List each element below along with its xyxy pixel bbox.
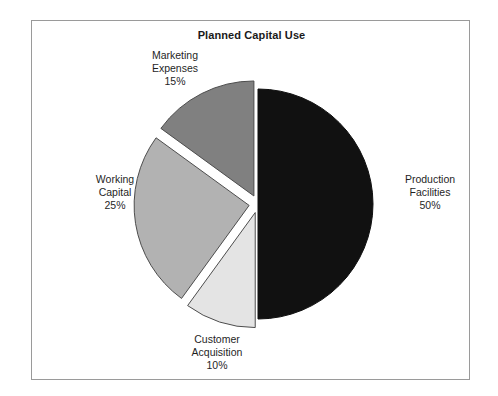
pie-label-working-line2: Capital bbox=[60, 186, 170, 199]
pie-label-marketing-percent: 15% bbox=[120, 75, 230, 88]
pie-label-marketing-expenses: Marketing Expenses 15% bbox=[120, 49, 230, 88]
pie-label-marketing-line2: Expenses bbox=[120, 62, 230, 75]
pie-label-production-line2: Facilities bbox=[370, 186, 490, 199]
pie-label-customer-percent: 10% bbox=[157, 359, 277, 372]
pie-label-working-line1: Working bbox=[60, 173, 170, 186]
pie-label-production-facilities: Production Facilities 50% bbox=[370, 173, 490, 212]
pie-label-working-percent: 25% bbox=[60, 199, 170, 212]
pie-slice-production-facilities[interactable] bbox=[258, 89, 373, 319]
pie-label-customer-line1: Customer bbox=[157, 333, 277, 346]
pie-label-production-percent: 50% bbox=[370, 199, 490, 212]
pie-chart-figure: Planned Capital Use Marketing Expenses 1… bbox=[0, 0, 498, 396]
pie-label-customer-acquisition: Customer Acquisition 10% bbox=[157, 333, 277, 372]
pie-label-working-capital: Working Capital 25% bbox=[60, 173, 170, 212]
pie-label-marketing-line1: Marketing bbox=[120, 49, 230, 62]
pie-label-customer-line2: Acquisition bbox=[157, 346, 277, 359]
chart-frame: Planned Capital Use Marketing Expenses 1… bbox=[31, 20, 470, 380]
pie-label-production-line1: Production bbox=[370, 173, 490, 186]
